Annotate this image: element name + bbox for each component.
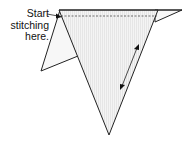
bunting-pennant-diagram (0, 0, 191, 143)
back-pennant-right (155, 10, 182, 22)
main-pennant (59, 10, 158, 135)
